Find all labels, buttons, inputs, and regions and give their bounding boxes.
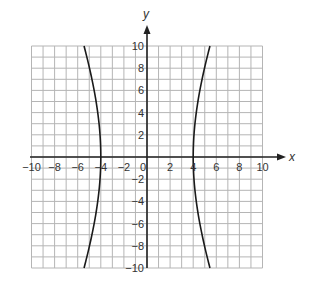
x-tick-label: −8	[48, 161, 61, 173]
x-axis-label: x	[288, 150, 296, 164]
y-tick-label: 2	[138, 129, 144, 141]
y-tick-label: −4	[131, 195, 144, 207]
hyperbola-chart: −10−8−6−4−20246810−10−8−6−4−2246810 x y	[0, 0, 310, 287]
y-tick-label: −6	[131, 218, 144, 230]
y-tick-label: −2	[131, 173, 144, 185]
y-tick-label: 4	[138, 107, 144, 119]
x-tick-label: 0	[140, 161, 146, 173]
y-tick-label: 10	[132, 40, 144, 52]
x-tick-label: −10	[22, 161, 41, 173]
x-axis-arrow-icon	[277, 154, 286, 161]
x-tick-label: 8	[236, 161, 242, 173]
y-axis-arrow-icon	[144, 25, 151, 34]
axes	[30, 25, 286, 268]
y-tick-label: −10	[125, 262, 144, 274]
x-tick-label: −2	[118, 161, 131, 173]
x-tick-label: 10	[256, 161, 268, 173]
y-tick-label: 8	[138, 62, 144, 74]
y-axis-label: y	[142, 7, 150, 21]
x-tick-label: −4	[95, 161, 108, 173]
x-tick-label: 2	[167, 161, 173, 173]
y-tick-label: −8	[131, 240, 144, 252]
x-tick-label: −6	[71, 161, 84, 173]
x-tick-label: 4	[190, 161, 196, 173]
y-tick-label: 6	[138, 84, 144, 96]
x-tick-label: 6	[213, 161, 219, 173]
